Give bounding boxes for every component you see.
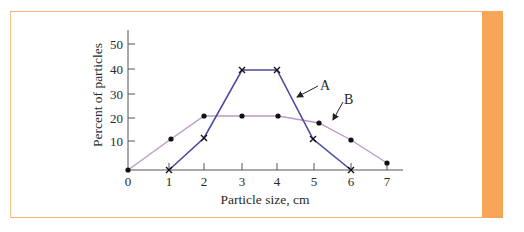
x-tick-4: 4	[274, 174, 281, 189]
x-tick-7: 7	[384, 174, 391, 189]
x-tick-5: 5	[311, 174, 318, 189]
x-tick-2: 2	[201, 174, 208, 189]
series-a-label: A	[320, 78, 331, 93]
x-ticks	[169, 163, 387, 170]
series-a-arrow	[297, 86, 318, 97]
y-axis-title: Percent of particles	[90, 43, 105, 147]
y-ticks	[128, 44, 135, 141]
particle-size-chart: 10 20 30 40 50 0 1 2 3 4 5 6 7 Particle …	[0, 0, 524, 232]
y-tick-labels: 10 20 30 40 50	[110, 37, 123, 149]
series-b-label: B	[344, 92, 353, 107]
y-tick-20: 20	[110, 111, 123, 126]
x-tick-0: 0	[125, 174, 132, 189]
x-tick-6: 6	[348, 174, 355, 189]
x-tick-labels: 0 1 2 3 4 5 6 7	[125, 174, 391, 189]
y-tick-30: 30	[110, 87, 123, 102]
y-tick-50: 50	[110, 37, 123, 52]
x-axis-title: Particle size, cm	[221, 192, 310, 207]
series-b-line	[128, 116, 387, 170]
x-tick-3: 3	[239, 174, 246, 189]
series-b-arrow	[333, 102, 343, 120]
y-tick-10: 10	[110, 134, 123, 149]
y-tick-40: 40	[110, 62, 123, 77]
x-tick-1: 1	[166, 174, 173, 189]
